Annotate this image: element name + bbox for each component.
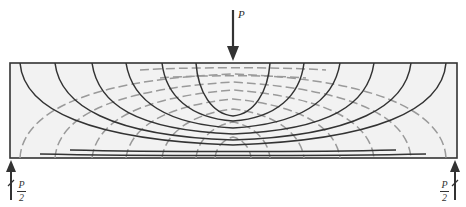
right-reaction-denominator: 2 (442, 193, 447, 203)
left-reaction-numerator: P (18, 180, 24, 190)
beam-diagram: P P 2 P 2 (0, 0, 466, 207)
beam-body (10, 63, 457, 158)
load-label: P (238, 8, 245, 20)
right-reaction-label: P 2 (440, 180, 449, 203)
left-reaction-arrow (6, 160, 16, 200)
right-reaction-numerator: P (441, 180, 447, 190)
left-reaction-label: P 2 (17, 180, 26, 203)
left-reaction-denominator: 2 (19, 193, 24, 203)
right-reaction-arrow (450, 160, 460, 200)
